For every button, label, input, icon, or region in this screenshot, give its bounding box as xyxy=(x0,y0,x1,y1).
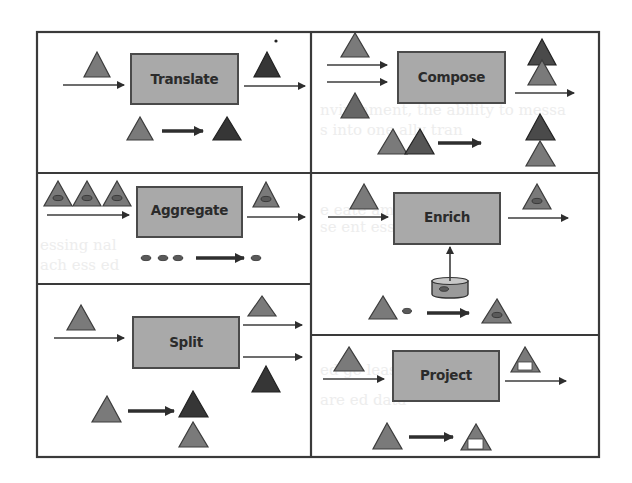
output-triangle-dark-icon xyxy=(252,366,280,392)
svg-text:se ent ess: se ent ess xyxy=(320,218,395,236)
output-oval-icon xyxy=(532,198,542,203)
example-oval-3-icon xyxy=(173,255,183,260)
input-oval-1-icon xyxy=(53,195,63,200)
example-output-triangle-bottom-icon xyxy=(526,141,555,166)
svg-text:ach ess ed: ach ess ed xyxy=(40,256,120,274)
input-triangle-3-icon xyxy=(103,181,131,206)
input-triangle-icon xyxy=(350,184,378,209)
compose-label: Compose xyxy=(418,69,485,85)
example-output-projected-triangle-icon xyxy=(461,424,491,450)
input-oval-3-icon xyxy=(112,195,122,200)
output-oval-icon xyxy=(261,196,271,201)
example-input-triangle-icon xyxy=(369,296,397,319)
example-oval-2-icon xyxy=(158,255,168,260)
panel-enrich: Enrich xyxy=(328,184,568,323)
example-input-triangle-icon xyxy=(127,117,153,140)
panel-compose: Compose xyxy=(327,33,574,166)
translate-label: Translate xyxy=(151,71,219,87)
example-output-oval-icon xyxy=(251,255,261,260)
output-triangle-icon xyxy=(523,184,551,209)
aggregate-label: Aggregate xyxy=(151,202,228,218)
input-triangle-icon xyxy=(84,52,110,77)
example-output-triangle-icon xyxy=(482,299,511,323)
example-input-triangle-icon xyxy=(92,396,121,422)
panel-translate: Translate xyxy=(63,39,305,140)
project-label: Project xyxy=(420,367,473,383)
input-triangle-2-icon xyxy=(73,181,101,206)
input-oval-2-icon xyxy=(82,195,92,200)
transformation-patterns-diagram: nvironment, the ability to messa s into … xyxy=(0,0,632,483)
output-projected-triangle-icon xyxy=(511,347,540,372)
split-label: Split xyxy=(169,334,203,350)
speck xyxy=(274,39,277,42)
example-input-triangle-icon xyxy=(373,423,402,449)
input-triangle-1-icon xyxy=(44,181,72,206)
example-output-oval-icon xyxy=(492,312,502,317)
panel-grid xyxy=(37,32,599,457)
outer-frame xyxy=(37,32,599,457)
enrich-label: Enrich xyxy=(424,209,470,225)
example-input-oval-icon xyxy=(403,308,412,313)
example-output-triangle-light-icon xyxy=(179,422,208,447)
svg-text:essing nal: essing nal xyxy=(40,236,117,254)
output-triangle-icon xyxy=(253,182,279,207)
example-oval-1-icon xyxy=(141,255,151,260)
input-triangle-a-icon xyxy=(341,33,369,57)
input-triangle-icon xyxy=(334,347,364,371)
panel-split: Split xyxy=(54,296,302,447)
output-triangle-icon xyxy=(254,52,280,77)
output-triangle-light-icon xyxy=(248,296,276,316)
input-triangle-icon xyxy=(67,305,95,330)
example-output-triangle-dark-icon xyxy=(179,391,208,417)
example-output-triangle-icon xyxy=(213,117,241,140)
